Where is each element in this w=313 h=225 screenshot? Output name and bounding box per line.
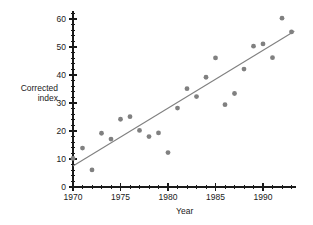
data-point [175, 106, 180, 111]
data-point [71, 156, 76, 161]
data-point [194, 94, 199, 99]
y-axis-tick-label: 10 [57, 154, 67, 164]
trend-line [73, 31, 294, 166]
y-axis-tick-label: 0 [61, 182, 66, 192]
x-axis-tick-label: 1975 [111, 192, 130, 202]
data-point [147, 134, 152, 139]
x-axis-group: 19701975198019851990 [64, 183, 297, 202]
data-point [213, 56, 218, 61]
data-point [156, 131, 161, 136]
data-point [289, 29, 294, 34]
y-axis-tick-label: 60 [57, 14, 67, 24]
y-axis-tick-label: 40 [57, 70, 67, 80]
y-axis-tick-label: 20 [57, 126, 67, 136]
data-point-series [71, 16, 294, 173]
data-point [137, 128, 142, 133]
data-point [280, 16, 285, 21]
data-point [232, 91, 237, 96]
scatter-plot-figure: 0102030405060 19701975198019851990 Year … [0, 0, 313, 225]
data-point [223, 102, 228, 107]
x-axis-tick-label: 1990 [254, 192, 273, 202]
data-point [99, 131, 104, 136]
data-point [166, 150, 171, 155]
data-point [90, 168, 95, 173]
plot-canvas: 0102030405060 19701975198019851990 Year … [0, 0, 313, 225]
y-axis-title-line-2: index [38, 93, 59, 103]
data-point [204, 75, 209, 80]
x-axis-tick-label: 1985 [206, 192, 225, 202]
data-point [270, 55, 275, 60]
y-axis-tick-label: 50 [57, 42, 67, 52]
y-axis-title-line-1: Corrected [21, 83, 59, 93]
x-axis-tick-label: 1970 [64, 192, 83, 202]
data-point [80, 146, 85, 151]
x-axis-tick-labels: 19701975198019851990 [64, 192, 273, 202]
data-point [109, 137, 114, 142]
trend-line-group [73, 31, 294, 166]
data-point [118, 117, 123, 122]
x-axis-tick-label: 1980 [159, 192, 178, 202]
y-axis-tick-labels: 0102030405060 [57, 14, 67, 192]
data-point [242, 67, 247, 72]
data-point [251, 44, 256, 49]
data-point [185, 86, 190, 91]
data-point [128, 114, 133, 119]
data-point [261, 42, 266, 47]
x-axis-title: Year [176, 206, 193, 216]
